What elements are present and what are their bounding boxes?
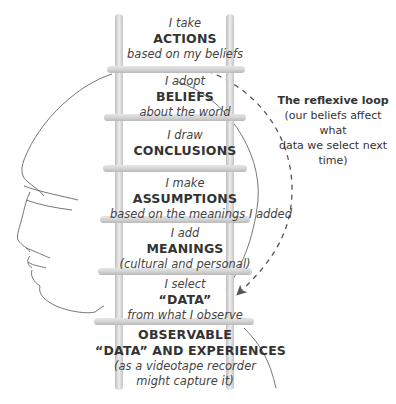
loop-title: The reflexive loop xyxy=(270,93,396,108)
step-label-2: “DATA” AND EXPERIENCES xyxy=(95,343,275,359)
step-pre: I add xyxy=(110,226,260,241)
step-post: (as a videotape recorder xyxy=(95,359,275,374)
step-label: “DATA” xyxy=(110,292,260,308)
step-post: from what I observe xyxy=(110,308,260,323)
step-assumptions: I make ASSUMPTIONS based on the meanings… xyxy=(110,176,260,222)
head-profile-icon xyxy=(17,74,112,313)
step-pre: I draw xyxy=(110,128,260,143)
step-data: I select “DATA” from what I observe xyxy=(110,277,260,323)
loop-line-2: data we select next time) xyxy=(270,138,396,168)
step-label: BELIEFS xyxy=(110,89,260,105)
step-label: CONCLUSIONS xyxy=(110,143,260,159)
step-pre: I take xyxy=(110,16,260,31)
step-pre: I select xyxy=(110,277,260,292)
step-label: OBSERVABLE xyxy=(95,327,275,343)
step-pre: I adopt xyxy=(110,74,260,89)
step-post: based on my beliefs xyxy=(110,47,260,62)
step-post: about the world xyxy=(110,105,260,120)
step-actions: I take ACTIONS based on my beliefs xyxy=(110,16,260,62)
ladder-of-inference-diagram: I take ACTIONS based on my beliefs I ado… xyxy=(0,0,396,404)
step-meanings: I add MEANINGS (cultural and personal) xyxy=(110,226,260,272)
step-post: based on the meanings I added xyxy=(110,207,260,222)
step-label: ASSUMPTIONS xyxy=(110,191,260,207)
step-post: (cultural and personal) xyxy=(110,257,260,272)
step-label: ACTIONS xyxy=(110,31,260,47)
step-post-2: might capture it) xyxy=(95,374,275,389)
loop-line-1: (our beliefs affect what xyxy=(270,108,396,138)
step-pre: I make xyxy=(110,176,260,191)
step-conclusions: I draw CONCLUSIONS xyxy=(110,128,260,159)
step-observable: OBSERVABLE “DATA” AND EXPERIENCES (as a … xyxy=(95,327,275,389)
step-label: MEANINGS xyxy=(110,241,260,257)
reflexive-loop-caption: The reflexive loop (our beliefs affect w… xyxy=(270,93,396,168)
step-beliefs: I adopt BELIEFS about the world xyxy=(110,74,260,120)
